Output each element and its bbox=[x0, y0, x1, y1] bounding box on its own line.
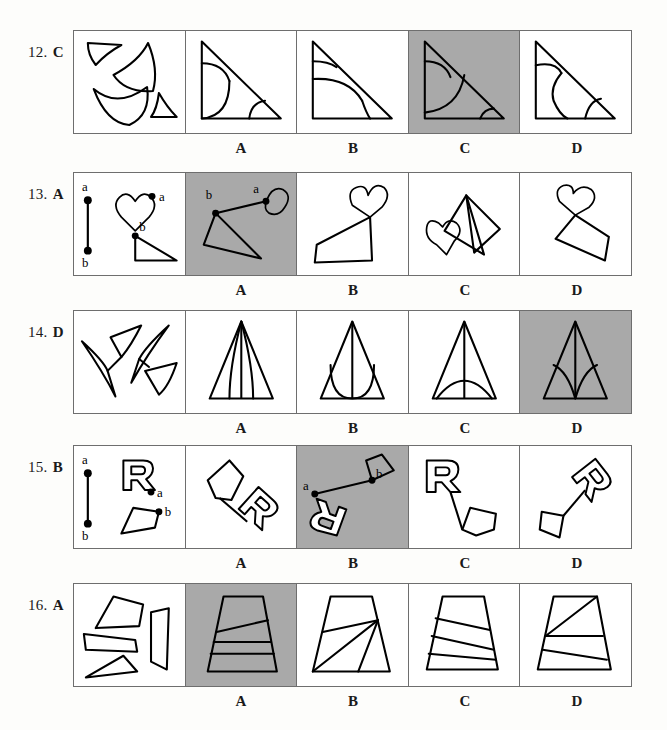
answer-grid-16 bbox=[73, 583, 632, 687]
point-label-b: b bbox=[82, 256, 88, 270]
option-panel-14-C[interactable] bbox=[409, 311, 521, 413]
option-letter-14-B: B bbox=[297, 416, 409, 440]
option-letter-15-B: B bbox=[297, 551, 409, 575]
point-label-a: a bbox=[303, 479, 309, 493]
option-panel-13-A[interactable]: b a bbox=[186, 173, 298, 275]
question-label-16: 16.A bbox=[28, 597, 64, 614]
option-letter-15-C: C bbox=[409, 551, 521, 575]
point-label-b: b bbox=[376, 467, 382, 481]
option-letter-12-C: C bbox=[409, 136, 521, 160]
option-panel-12-C[interactable] bbox=[409, 31, 521, 133]
question-number: 14. bbox=[28, 324, 48, 340]
option-letter-13-B: B bbox=[297, 278, 409, 302]
question-row-15: 15.B a b a b bbox=[0, 445, 667, 580]
option-panel-13-B[interactable] bbox=[297, 173, 409, 275]
option-panel-15-A[interactable] bbox=[186, 446, 298, 548]
option-panel-16-A[interactable] bbox=[186, 584, 298, 686]
question-label-13: 13.A bbox=[28, 186, 64, 203]
question-answer: C bbox=[53, 44, 64, 60]
point-label-a: a bbox=[82, 180, 88, 194]
question-row-16: 16.A bbox=[0, 583, 667, 718]
question-row-14: 14.D bbox=[0, 310, 667, 445]
answer-grid-12 bbox=[73, 30, 632, 134]
option-letter-13-C: C bbox=[409, 278, 521, 302]
option-letter-16-D: D bbox=[521, 689, 633, 713]
point-label-b-pent: b bbox=[165, 505, 171, 519]
option-letter-15-A: A bbox=[185, 551, 297, 575]
option-letter-12-D: D bbox=[521, 136, 633, 160]
option-letter-16-A: A bbox=[185, 689, 297, 713]
letter-r-outline bbox=[123, 460, 155, 490]
option-panel-15-D[interactable] bbox=[520, 446, 631, 548]
letter-r-outline bbox=[427, 460, 461, 492]
option-panel-14-D[interactable] bbox=[520, 311, 631, 413]
question-number: 13. bbox=[28, 186, 48, 202]
question-row-12: 12.C bbox=[0, 30, 667, 165]
question-number: 15. bbox=[28, 459, 48, 475]
option-letter-15-D: D bbox=[521, 551, 633, 575]
stimulus-panel-13: a b a b bbox=[74, 173, 186, 275]
question-number: 12. bbox=[28, 44, 48, 60]
option-letter-13-A: A bbox=[185, 278, 297, 302]
question-answer: B bbox=[53, 459, 63, 475]
answer-grid-14 bbox=[73, 310, 632, 414]
answer-grid-13: a b a b b a bbox=[73, 172, 632, 276]
stimulus-panel-15: a b a b bbox=[74, 446, 186, 548]
option-panel-12-D[interactable] bbox=[520, 31, 631, 133]
letter-r-outline bbox=[238, 487, 281, 530]
question-label-14: 14.D bbox=[28, 324, 64, 341]
option-letter-12-B: B bbox=[297, 136, 409, 160]
option-panel-16-C[interactable] bbox=[409, 584, 521, 686]
point-label-a: a bbox=[253, 182, 259, 196]
point-label-b: b bbox=[205, 188, 211, 202]
option-panel-13-D[interactable] bbox=[520, 173, 631, 275]
question-answer: A bbox=[53, 597, 64, 613]
stimulus-panel-16 bbox=[74, 584, 186, 686]
point-label-b-tri: b bbox=[139, 220, 145, 234]
option-panel-13-C[interactable] bbox=[409, 173, 521, 275]
option-panel-16-B[interactable] bbox=[297, 584, 409, 686]
point-label-a: a bbox=[82, 453, 88, 467]
answer-grid-15: a b a b bbox=[73, 445, 632, 549]
letter-r-outline bbox=[572, 459, 615, 502]
option-letter-14-C: C bbox=[409, 416, 521, 440]
question-label-12: 12.C bbox=[28, 44, 64, 61]
option-letter-16-C: C bbox=[409, 689, 521, 713]
letter-r-outline bbox=[307, 499, 347, 538]
option-letter-12-A: A bbox=[185, 136, 297, 160]
option-panel-15-B[interactable]: a b bbox=[297, 446, 409, 548]
option-panel-15-C[interactable] bbox=[409, 446, 521, 548]
point-label-a-r: a bbox=[157, 486, 163, 500]
question-label-15: 15.B bbox=[28, 459, 63, 476]
question-answer: A bbox=[53, 186, 64, 202]
option-panel-14-A[interactable] bbox=[186, 311, 298, 413]
option-panel-12-B[interactable] bbox=[297, 31, 409, 133]
option-panel-12-A[interactable] bbox=[186, 31, 298, 133]
option-letter-14-D: D bbox=[521, 416, 633, 440]
point-label-b: b bbox=[82, 529, 88, 543]
stimulus-panel-12 bbox=[74, 31, 186, 133]
option-letter-13-D: D bbox=[521, 278, 633, 302]
option-panel-16-D[interactable] bbox=[520, 584, 631, 686]
stimulus-panel-14 bbox=[74, 311, 186, 413]
question-row-13: 13.A a b a b b bbox=[0, 172, 667, 307]
question-number: 16. bbox=[28, 597, 48, 613]
option-letter-14-A: A bbox=[185, 416, 297, 440]
test-page: 12.C bbox=[0, 0, 667, 730]
question-answer: D bbox=[53, 324, 64, 340]
option-panel-14-B[interactable] bbox=[297, 311, 409, 413]
point-label-a-heart: a bbox=[159, 190, 165, 204]
option-letter-16-B: B bbox=[297, 689, 409, 713]
